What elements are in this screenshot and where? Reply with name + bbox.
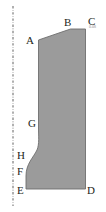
vertex-label-f: F [17, 166, 23, 177]
dimension-note-c: 0.08 [89, 25, 96, 29]
vertex-label-d: D [87, 185, 95, 196]
vertex-label-e: E [17, 185, 24, 196]
diagram-canvas [0, 0, 106, 212]
cross-section-region [26, 29, 86, 189]
diagram-figure: A B C D E F G H 0.08 [0, 0, 106, 212]
vertex-label-a: A [26, 35, 34, 46]
vertex-label-h: H [17, 150, 25, 161]
vertex-label-g: G [28, 118, 36, 129]
vertex-label-b: B [64, 17, 71, 28]
